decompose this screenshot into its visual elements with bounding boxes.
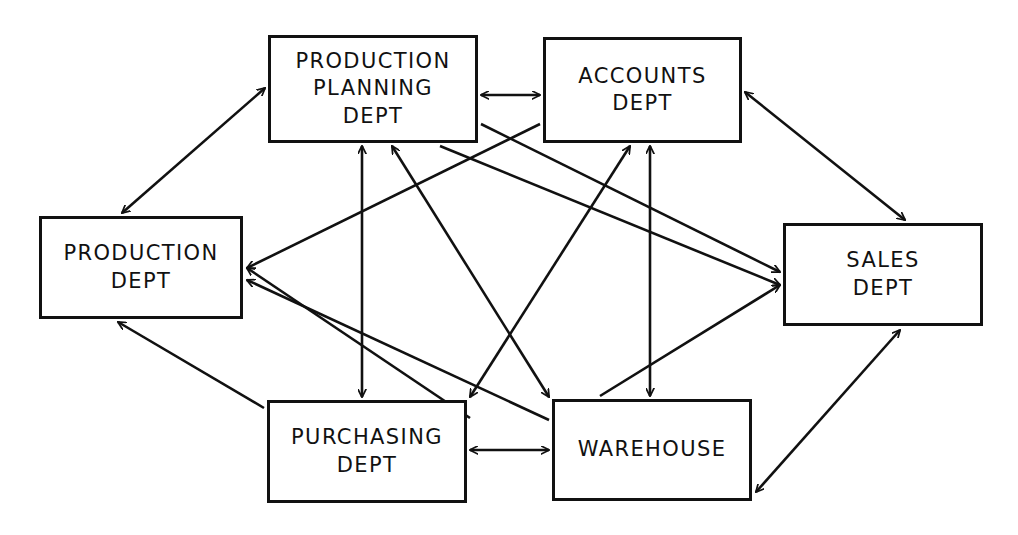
node-label-production: PRODUCTION DEPT: [63, 240, 218, 295]
connector-accounts-to-production: [247, 124, 540, 268]
connector-purchasing-to-production: [247, 268, 470, 418]
node-label-sales: SALES DEPT: [846, 247, 919, 302]
node-sales[interactable]: SALES DEPT: [783, 223, 983, 326]
diagram-canvas: PRODUCTION PLANNING DEPT ACCOUNTS DEPT P…: [0, 0, 1018, 535]
connector-warehouse-to-production: [247, 280, 549, 420]
connector-accounts-to-sales: [745, 92, 905, 220]
connector-purchasing-to-production: [118, 322, 264, 408]
node-label-accounts: ACCOUNTS DEPT: [578, 63, 706, 118]
node-production[interactable]: PRODUCTION DEPT: [39, 216, 243, 319]
connector-production-planning-to-production: [122, 88, 265, 213]
node-warehouse[interactable]: WAREHOUSE: [552, 399, 752, 501]
connector-production-planning-to-sales: [440, 146, 780, 285]
connector-purchasing-to-accounts: [470, 146, 630, 397]
node-accounts[interactable]: ACCOUNTS DEPT: [543, 37, 742, 143]
node-production-planning[interactable]: PRODUCTION PLANNING DEPT: [268, 35, 478, 143]
node-label-purchasing: PURCHASING DEPT: [291, 424, 443, 479]
node-label-warehouse: WAREHOUSE: [578, 436, 727, 463]
connector-warehouse-to-sales: [756, 330, 900, 492]
connector-production-planning-to-sales: [481, 124, 780, 272]
node-purchasing[interactable]: PURCHASING DEPT: [267, 400, 467, 503]
node-label-production-planning: PRODUCTION PLANNING DEPT: [295, 48, 450, 130]
connector-warehouse-to-sales: [600, 285, 780, 396]
